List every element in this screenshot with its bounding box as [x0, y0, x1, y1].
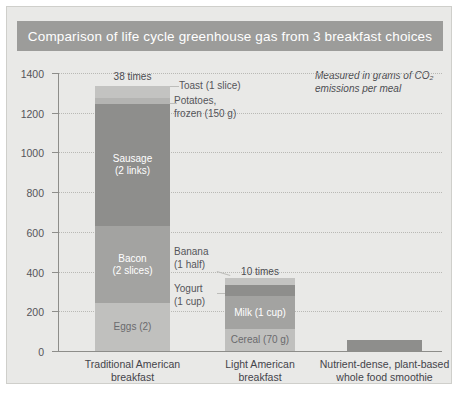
- bar-segment-potatoes[interactable]: [95, 98, 170, 104]
- bar-segment-bacon[interactable]: Bacon(2 slices): [95, 226, 170, 303]
- bar-light-american-breakfast[interactable]: Cereal (70 g) Milk (1 cup): [225, 278, 295, 351]
- leader-line-toast: [170, 86, 179, 87]
- chart-card: Comparison of life cycle greenhouse gas …: [6, 6, 452, 384]
- y-tick-1400: 1400: [52, 73, 58, 74]
- y-tick-label: 1200: [21, 108, 44, 120]
- bar-segment-label: Milk (1 cup): [234, 307, 286, 319]
- y-axis-line: [58, 73, 59, 352]
- y-tick-label: 1000: [21, 147, 44, 159]
- bar-segment-toast[interactable]: [95, 86, 170, 98]
- callout-yogurt: Yogurt(1 cup): [174, 283, 205, 308]
- y-tick-label: 600: [26, 227, 44, 239]
- bar-nutrient-dense-smoothie[interactable]: [347, 340, 422, 351]
- y-tick-1200: 1200: [52, 113, 58, 114]
- bar-segment-label: Sausage(2 links): [113, 153, 152, 177]
- bar-segment-label: Cereal (70 g): [231, 334, 289, 346]
- y-tick-label: 1400: [21, 68, 44, 80]
- x-tick-label-light: Light Americanbreakfast: [207, 358, 313, 384]
- y-tick-800: 800: [52, 192, 58, 193]
- y-tick-600: 600: [52, 232, 58, 233]
- bar-segment-banana[interactable]: [225, 278, 295, 285]
- bar-segment-label: Eggs (2): [114, 321, 152, 333]
- bar-segment-sausage[interactable]: Sausage(2 links): [95, 104, 170, 226]
- callout-potatoes: Potatoes,frozen (150 g): [174, 95, 236, 120]
- y-tick-label: 400: [26, 267, 44, 279]
- bar-segment-label: Bacon(2 slices): [112, 253, 152, 277]
- y-tick-200: 200: [52, 311, 58, 312]
- bar-segment-eggs[interactable]: Eggs (2): [95, 303, 170, 351]
- multiplier-label-bar1: 38 times: [95, 71, 170, 82]
- bar-traditional-american-breakfast[interactable]: Eggs (2) Bacon(2 slices) Sausage(2 links…: [95, 86, 170, 351]
- callout-banana: Banana(1 half): [174, 246, 208, 271]
- callout-toast: Toast (1 slice): [179, 80, 241, 93]
- x-axis-line: [58, 351, 442, 352]
- y-tick-400: 400: [52, 272, 58, 273]
- bar-segment-yogurt[interactable]: [225, 285, 295, 296]
- y-tick-0: 0: [52, 351, 58, 352]
- bar-segment-cereal[interactable]: Cereal (70 g): [225, 329, 295, 351]
- bar-segment-milk[interactable]: Milk (1 cup): [225, 296, 295, 329]
- plot-area: 1400 1200 1000 800 600 400 200 0 Eggs (2…: [52, 67, 442, 357]
- x-tick-label-traditional: Traditional Americanbreakfast: [70, 358, 195, 384]
- chart-title-bar: Comparison of life cycle greenhouse gas …: [17, 21, 443, 51]
- x-tick-label-smoothie: Nutrient-dense, plant-basedwhole food sm…: [317, 358, 452, 384]
- page-title: Comparison of life cycle greenhouse gas …: [28, 29, 432, 44]
- y-tick-label: 800: [26, 187, 44, 199]
- y-tick-label: 200: [26, 306, 44, 318]
- y-tick-label: 0: [38, 346, 44, 358]
- leader-line-potatoes: [170, 103, 177, 104]
- y-tick-1000: 1000: [52, 152, 58, 153]
- multiplier-label-bar2: 10 times: [225, 266, 295, 277]
